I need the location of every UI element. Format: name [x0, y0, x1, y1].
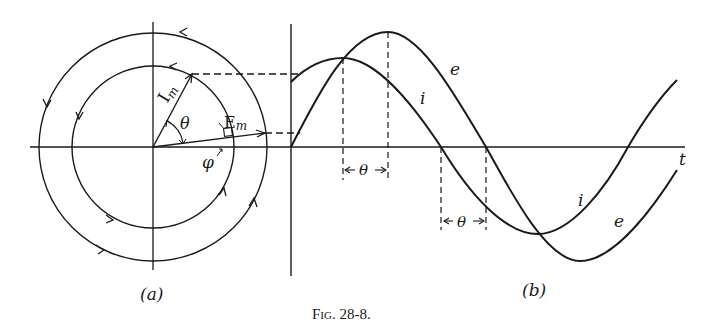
label-theta-peaks: θ: [359, 161, 368, 179]
arrow-icon: [180, 28, 187, 36]
label-theta-a: θ: [180, 114, 190, 133]
panel-b-label: (b): [522, 280, 546, 300]
waveform-plot: θ θ e i i e t (b): [291, 24, 686, 300]
label-Em: Em: [224, 113, 247, 133]
phi-arrow-icon: [217, 149, 222, 156]
arrow-icon: [96, 245, 104, 254]
label-i-lower: i: [578, 190, 583, 210]
voltage-phasor-Em: [153, 133, 265, 147]
guide-lines: [343, 32, 486, 230]
label-i-upper: i: [420, 88, 425, 108]
figure-caption: Fig. 28-8.: [312, 306, 371, 322]
curve-i: [291, 58, 677, 234]
label-phi: φ: [202, 152, 214, 172]
label-e-lower: e: [614, 211, 624, 231]
panel-a-label: (a): [140, 284, 163, 304]
figure-28-8: Im θ Em φ (a) θ: [0, 0, 711, 330]
label-t-axis: t: [679, 149, 686, 169]
theta-arc-arrow-icon: [166, 120, 172, 127]
label-theta-zeros: θ: [457, 213, 466, 231]
outer-rotation-arrows: [43, 28, 257, 254]
current-phasor-Im: [153, 74, 192, 147]
label-e-upper: e: [450, 59, 460, 79]
phasor-diagram: Im θ Em φ (a): [30, 22, 291, 304]
